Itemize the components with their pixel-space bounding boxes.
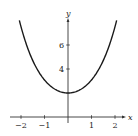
y-axis-label: y <box>65 9 71 18</box>
x-tick-label: 1 <box>89 121 94 130</box>
y-axis: y 46 <box>59 9 71 123</box>
x-axis-label: x <box>128 113 133 122</box>
y-tick-label: 6 <box>59 41 64 50</box>
function-plot: x −2−112 y 46 <box>0 0 138 136</box>
x-axis: x −2−112 <box>10 113 133 130</box>
y-axis-arrow-icon <box>67 18 70 22</box>
x-tick-label: −1 <box>39 121 51 130</box>
y-tick-label: 4 <box>59 65 64 74</box>
x-tick-label: 2 <box>112 121 117 130</box>
x-axis-arrow-icon <box>122 116 126 119</box>
x-tick-label: −2 <box>15 121 27 130</box>
